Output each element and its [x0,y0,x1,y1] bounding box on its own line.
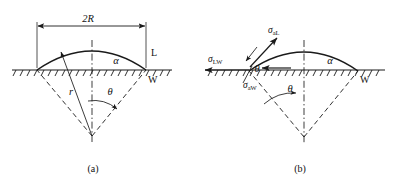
wall-hatching [13,70,170,76]
figure-container: 2R r θ α L W (a) [0,0,395,188]
diagram-svg: 2R r θ α L W (a) [0,0,395,188]
wall-hatching-b [208,70,379,76]
radius-dashed-left [37,70,92,136]
label-theta-contact-b: θ [254,63,259,74]
radius-dashed-left-b [249,71,304,137]
panel-b: σaL σLW σaW θ θ α W (b) [205,25,385,175]
liquid-surface-arc [37,51,146,70]
label-alpha-a: α [113,55,119,66]
label-sigma-aW: σaW [243,80,258,91]
radius-arrow [61,52,92,136]
label-theta-b: θ [287,83,292,94]
radius-dashed-right-b [304,71,358,137]
caption-panel-b: (b) [294,163,306,175]
label-liquid-L: L [151,47,157,58]
label-2R: 2R [82,13,94,24]
radius-dashed-right [92,70,146,136]
label-sigma-aL: σaL [268,25,280,36]
label-radius-r: r [69,86,74,97]
label-wall-W: W [148,74,158,85]
panel-a: 2R r θ α L W (a) [12,13,172,175]
tangent-guide-tick [246,47,257,61]
theta-angle-arc-b [264,93,296,104]
caption-panel-a: (a) [87,163,98,175]
label-alpha-b: α [327,55,333,66]
label-theta-a: θ [107,86,112,97]
label-wall-W-b: W [360,74,370,85]
label-sigma-LW: σLW [208,54,223,65]
